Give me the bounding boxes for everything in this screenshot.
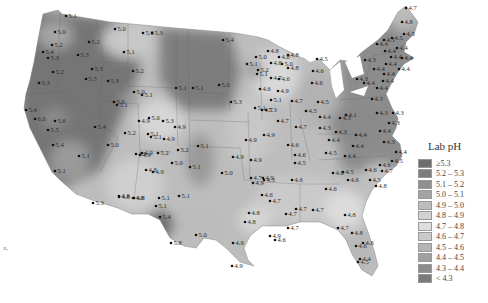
site-ph-label: 4.7 [254, 174, 263, 181]
site-dot [382, 80, 385, 83]
site-dot [250, 159, 253, 162]
site-dot [231, 265, 234, 268]
site-dot [118, 195, 121, 198]
site-ph-label: 4.7 [316, 206, 325, 213]
site-ph-label: 5.1 [196, 84, 204, 91]
legend-swatch [418, 222, 432, 231]
site-dot [291, 179, 294, 182]
legend-label: 4.9 – 5.0 [436, 201, 464, 210]
site-ph-label: 5.3 [155, 29, 163, 36]
site-ph-label: 4.5 [346, 168, 354, 175]
site-ph-label: 4.3 [368, 56, 376, 63]
site-ph-label: 4.6 [263, 85, 272, 92]
site-dot [159, 216, 162, 219]
site-dot [175, 87, 178, 90]
site-ph-label: 4.4 [386, 77, 395, 84]
site-ph-label: 4.8 [348, 211, 356, 218]
site-ph-label: 4.8 [405, 18, 413, 25]
site-dot [287, 54, 290, 57]
site-ph-label: 5.1 [154, 133, 162, 140]
site-dot [371, 98, 374, 101]
site-dot [357, 261, 360, 264]
site-ph-label: 4.6 [366, 239, 375, 246]
site-dot [162, 120, 165, 123]
site-dot [232, 156, 235, 159]
site-dot [376, 112, 379, 115]
site-dot [274, 239, 277, 242]
legend-item: 4.6 – 4.7 [418, 232, 488, 243]
site-dot [369, 179, 372, 182]
site-dot [151, 32, 154, 35]
site-dot [174, 126, 177, 129]
legend-swatch [418, 264, 432, 273]
site-ph-label: 5.0 [137, 88, 145, 95]
site-dot [94, 126, 97, 129]
site-ph-label: 4.8 [379, 182, 387, 189]
site-dot [269, 235, 272, 238]
site-dot [133, 91, 136, 94]
site-ph-label: 4.8 [291, 51, 299, 58]
site-dot [255, 56, 258, 59]
site-ph-label: 4.9 [236, 239, 244, 246]
site-dot [157, 152, 160, 155]
site-ph-label: 5.4 [226, 36, 235, 43]
site-ph-label: 5.0 [225, 169, 233, 176]
site-dot [252, 182, 255, 185]
site-ph-label: 4.9 [236, 153, 244, 160]
site-ph-label: 4.6 [316, 67, 325, 74]
site-ph-label: 4.4 [399, 148, 408, 155]
site-dot [77, 54, 80, 57]
site-dot [363, 82, 366, 85]
site-dot [319, 127, 322, 130]
site-ph-label: 4.6 [291, 141, 300, 148]
site-ph-label: 4.7 [281, 117, 290, 124]
site-ph-label: 5.1 [201, 142, 209, 149]
legend-label: 4.3 – 4.4 [436, 264, 464, 273]
site-dot [133, 197, 136, 200]
site-dot [312, 70, 315, 73]
site-dot [114, 28, 117, 31]
legend: Lab pH ≥5.35.2 – 5.35.1 – 5.25.0 – 5.14.… [418, 140, 488, 284]
site-ph-label: 4.4 [359, 131, 368, 138]
site-ph-label: 5.1 [182, 192, 190, 199]
site-ph-label: 5.3 [166, 117, 174, 124]
site-dot [147, 133, 150, 136]
site-ph-label: 4.6 [336, 169, 345, 176]
site-ph-label: 6.0 [38, 115, 46, 122]
site-ph-label: 4.9 [178, 123, 186, 130]
site-dot [376, 87, 379, 90]
site-dot [107, 80, 110, 83]
site-ph-label: 5.4 [56, 141, 65, 148]
site-dot [332, 172, 335, 175]
site-dot [54, 120, 57, 123]
site-ph-label: 5.5 [89, 75, 97, 82]
site-ph-label: 4.9 [249, 136, 257, 143]
site-ph-label: 5.5 [51, 126, 59, 133]
site-ph-label: 5.1 [162, 194, 170, 201]
site-dot [362, 242, 365, 245]
site-ph-label: 4.5 [298, 159, 306, 166]
site-dot [267, 50, 270, 53]
legend-swatch [418, 169, 432, 178]
site-ph-label: 4.7 [291, 224, 300, 231]
legend-label: 5.0 – 5.1 [436, 190, 464, 199]
site-ph-label: 4.5 [321, 98, 329, 105]
site-ph-label: 4.5 [387, 36, 395, 43]
site-dot [312, 209, 315, 212]
site-ph-label: 5.8 [174, 239, 182, 246]
site-dot [405, 7, 408, 10]
site-dot [248, 212, 251, 215]
legend-label: ≥5.3 [436, 159, 450, 168]
stray-mark: x, [3, 244, 8, 252]
site-dot [291, 100, 294, 103]
legend-item: 5.1 – 5.2 [418, 179, 488, 190]
site-ph-label: 5.4 [163, 213, 172, 220]
site-ph-label: 5.3 [51, 54, 59, 61]
site-dot [163, 138, 166, 141]
site-dot [155, 205, 158, 208]
site-dot [339, 117, 342, 120]
site-ph-label: 4.9 [143, 151, 151, 158]
site-dot [355, 245, 358, 248]
site-dot [388, 122, 391, 125]
site-ph-label: 4.7 [265, 106, 274, 113]
